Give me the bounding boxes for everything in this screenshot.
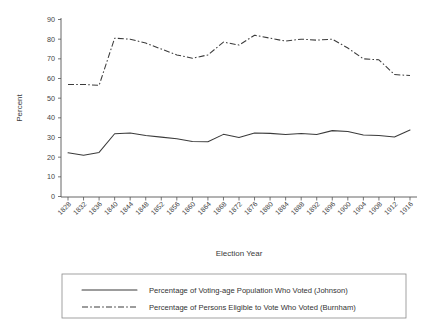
y-axis-ticks: 0102030405060708090 (47, 15, 61, 201)
x-tick-label: 1844 (118, 200, 134, 216)
x-tick-label: 1880 (258, 200, 274, 216)
x-tick-label: 1908 (367, 200, 383, 216)
x-tick-label: 1912 (383, 200, 399, 216)
y-tick-label: 60 (47, 74, 55, 83)
x-tick-label: 1916 (398, 200, 414, 216)
series-line-eligible-persons (68, 35, 410, 85)
y-tick-label: 70 (47, 54, 55, 63)
y-tick-label: 0 (51, 192, 55, 201)
line-chart: 0102030405060708090 18281832183618401844… (0, 0, 433, 329)
y-tick-label: 90 (47, 15, 55, 24)
legend-label: Percentage of Persons Eligible to Vote W… (149, 303, 356, 312)
x-tick-label: 1848 (134, 200, 150, 216)
y-tick-label: 20 (47, 153, 55, 162)
y-tick-label: 50 (47, 94, 55, 103)
x-tick-label: 1864 (196, 200, 212, 216)
y-tick-label: 10 (47, 172, 55, 181)
x-tick-label: 1872 (227, 200, 243, 216)
x-tick-label: 1904 (352, 200, 368, 216)
x-tick-label: 1860 (181, 200, 197, 216)
x-tick-label: 1888 (289, 200, 305, 216)
x-tick-label: 1884 (274, 200, 290, 216)
y-tick-label: 30 (47, 133, 55, 142)
x-tick-label: 1852 (150, 200, 166, 216)
x-tick-label: 1876 (243, 200, 259, 216)
y-tick-label: 80 (47, 35, 55, 44)
y-axis-title: Percent (15, 93, 24, 121)
x-tick-label: 1900 (336, 200, 352, 216)
x-axis-title: Election Year (216, 249, 263, 258)
x-tick-label: 1832 (72, 200, 88, 216)
legend-entries: Percentage of Voting-age Population Who … (82, 286, 356, 312)
x-tick-label: 1840 (103, 200, 119, 216)
x-tick-label: 1896 (321, 200, 337, 216)
legend-label: Percentage of Voting-age Population Who … (149, 286, 348, 295)
y-tick-label: 40 (47, 113, 55, 122)
x-tick-label: 1856 (165, 200, 181, 216)
x-axis-ticks: 1828183218361840184418481852185618601864… (56, 197, 414, 216)
x-tick-label: 1892 (305, 200, 321, 216)
x-tick-label: 1836 (87, 200, 103, 216)
x-tick-label: 1828 (56, 200, 72, 216)
x-tick-label: 1868 (212, 200, 228, 216)
chart-figure: 0102030405060708090 18281832183618401844… (0, 0, 433, 329)
series-line-voting-age-population (68, 130, 410, 155)
